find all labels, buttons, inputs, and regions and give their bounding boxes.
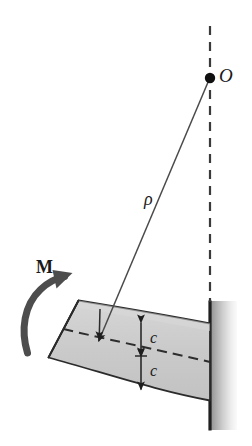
label-center-of-curvature: O bbox=[219, 66, 233, 85]
beam-section-line-vertical bbox=[99, 309, 100, 340]
label-c-bottom: c bbox=[150, 363, 157, 379]
label-moment: M bbox=[36, 258, 53, 276]
label-c-top: c bbox=[150, 330, 157, 346]
label-radius-of-curvature: ρ bbox=[144, 190, 153, 208]
curved-beam-bending-figure: O ρ M c c bbox=[0, 0, 252, 446]
fixed-wall-support bbox=[210, 301, 237, 431]
diagram-canvas bbox=[0, 0, 252, 446]
wall-hatch-band bbox=[210, 301, 237, 430]
center-of-curvature-dot bbox=[205, 73, 215, 83]
